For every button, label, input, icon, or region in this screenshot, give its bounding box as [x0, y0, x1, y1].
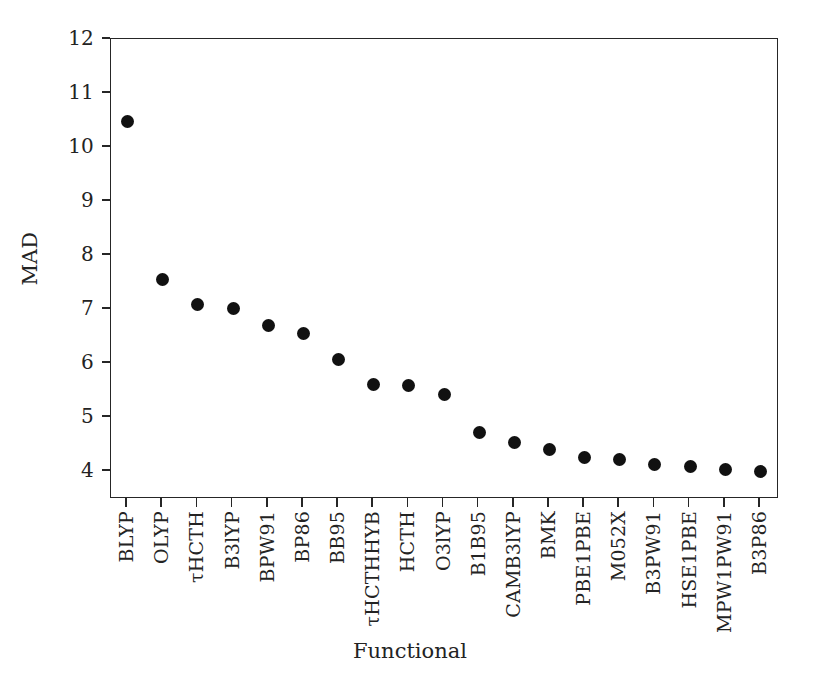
y-tick-label: 7: [34, 294, 94, 322]
data-point: [543, 443, 556, 456]
data-point: [508, 436, 521, 449]
x-tick-mark: [407, 498, 409, 507]
x-tick-mark: [336, 498, 338, 507]
y-tick-mark: [102, 199, 110, 201]
x-tick-mark: [723, 498, 725, 507]
x-tick-label: OLYP: [152, 511, 171, 564]
x-tick-label: BLYP: [117, 511, 136, 563]
x-tick-mark: [160, 498, 162, 507]
x-tick-label: MPW1PW91: [714, 511, 733, 633]
data-point: [262, 319, 275, 332]
x-tick-mark: [266, 498, 268, 507]
x-tick-mark: [125, 498, 127, 507]
x-tick-mark: [617, 498, 619, 507]
y-tick-label: 5: [34, 402, 94, 430]
data-point: [578, 451, 591, 464]
x-axis-title: Functional: [0, 638, 820, 664]
x-tick-label: M052X: [609, 511, 628, 581]
x-tick-label: B3P86: [749, 511, 768, 575]
plot-area: [110, 38, 778, 498]
y-tick-mark: [102, 253, 110, 255]
y-tick-label: 10: [34, 132, 94, 160]
x-tick-label: O3lYP: [433, 511, 452, 571]
x-tick-label: CAMB3lYP: [503, 511, 522, 618]
y-axis-title: MAD: [18, 232, 42, 286]
x-tick-mark: [301, 498, 303, 507]
x-tick-mark: [196, 498, 198, 507]
y-tick-label: 11: [34, 78, 94, 106]
y-tick-mark: [102, 145, 110, 147]
data-point: [297, 327, 310, 340]
x-tick-mark: [758, 498, 760, 507]
x-tick-mark: [512, 498, 514, 507]
x-tick-label: B3lYP: [222, 511, 241, 569]
y-tick-mark: [102, 469, 110, 471]
x-tick-label: BPW91: [257, 511, 276, 582]
data-point: [719, 463, 732, 476]
y-tick-label: 9: [34, 186, 94, 214]
x-tick-mark: [477, 498, 479, 507]
y-tick-mark: [102, 307, 110, 309]
x-tick-mark: [442, 498, 444, 507]
x-tick-mark: [582, 498, 584, 507]
y-tick-label: 12: [34, 24, 94, 52]
y-tick-mark: [102, 37, 110, 39]
y-tick-mark: [102, 361, 110, 363]
y-tick-mark: [102, 91, 110, 93]
x-tick-mark: [653, 498, 655, 507]
x-tick-mark: [231, 498, 233, 507]
x-tick-label: PBE1PBE: [574, 511, 593, 606]
x-tick-label: τHCTH: [187, 511, 206, 583]
x-tick-label: BMK: [538, 511, 557, 559]
y-tick-label: 8: [34, 240, 94, 268]
y-tick-mark: [102, 415, 110, 417]
x-tick-label: BB95: [328, 511, 347, 564]
data-point: [332, 353, 345, 366]
x-tick-mark: [547, 498, 549, 507]
scatter-plot-figure: 121110987654 BLYPOLYPτHCTHB3lYPBPW91BP86…: [0, 0, 820, 676]
y-tick-label: 6: [34, 348, 94, 376]
x-tick-label: B1B95: [468, 511, 487, 576]
data-point: [473, 426, 486, 439]
x-tick-label: τHCTHHYB: [363, 511, 382, 627]
y-tick-label: 4: [34, 456, 94, 484]
x-tick-mark: [371, 498, 373, 507]
data-point: [754, 465, 767, 478]
x-tick-mark: [688, 498, 690, 507]
data-point: [227, 302, 240, 315]
data-point: [438, 388, 451, 401]
x-tick-label: HCTH: [398, 511, 417, 572]
data-point: [613, 453, 626, 466]
x-tick-label: BP86: [292, 511, 311, 563]
data-point: [684, 460, 697, 473]
x-tick-label: B3PW91: [644, 511, 663, 595]
x-tick-label: HSE1PBE: [679, 511, 698, 609]
